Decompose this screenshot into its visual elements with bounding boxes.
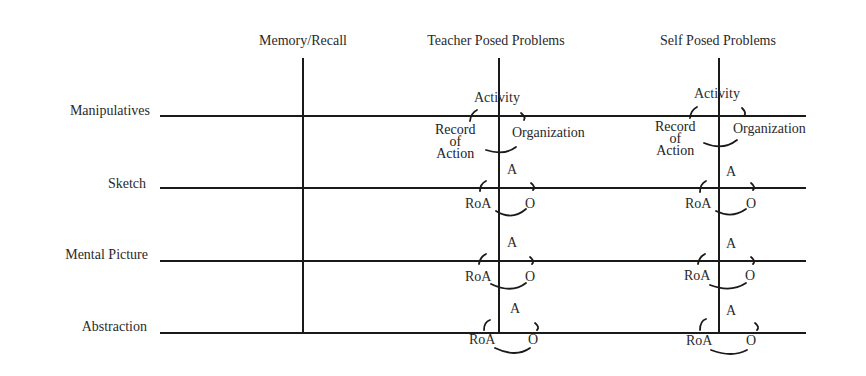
self-abstraction-organization-label: O	[746, 334, 756, 348]
self-mental-organization-label: O	[745, 269, 755, 283]
teacher-abstraction-organization-label: O	[528, 333, 538, 347]
teacher-mental-roa-label: RoA	[465, 270, 491, 284]
teacher-organization-label: Organization	[512, 126, 585, 140]
teacher-sketch-organization-label: O	[525, 197, 535, 211]
self-record-of-action-label: Record of Action	[655, 121, 695, 157]
row-line-manipulatives	[160, 115, 806, 117]
self-sketch-organization-label: O	[746, 197, 756, 211]
action-word: Action	[655, 145, 695, 157]
self-abstraction-activity-label: A	[726, 304, 736, 318]
self-sketch-roa-label: RoA	[685, 197, 711, 211]
teacher-activity-label: Activity	[474, 91, 520, 105]
self-activity-label: Activity	[694, 87, 740, 101]
action-word: Action	[435, 148, 475, 160]
row-label-sketch: Sketch	[0, 176, 146, 192]
column-header-memory-recall: Memory/Recall	[259, 33, 347, 49]
self-sketch-activity-label: A	[726, 165, 736, 179]
column-line-memory-recall	[302, 58, 304, 334]
row-label-mental-picture: Mental Picture	[0, 247, 148, 263]
column-header-teacher-posed: Teacher Posed Problems	[427, 33, 564, 49]
teacher-sketch-activity-label: A	[507, 163, 517, 177]
self-organization-label: Organization	[733, 122, 806, 136]
self-abstraction-roa-label: RoA	[686, 334, 712, 348]
row-label-manipulatives: Manipulatives	[0, 103, 150, 119]
teacher-mental-activity-label: A	[507, 236, 517, 250]
teacher-abstraction-activity-label: A	[510, 302, 520, 316]
column-header-self-posed: Self Posed Problems	[660, 33, 776, 49]
row-label-abstraction: Abstraction	[0, 319, 147, 335]
teacher-record-of-action-label: Record of Action	[435, 124, 475, 160]
teacher-abstraction-roa-label: RoA	[469, 333, 495, 347]
teacher-sketch-roa-label: RoA	[465, 197, 491, 211]
self-mental-activity-label: A	[726, 237, 736, 251]
teacher-mental-organization-label: O	[525, 270, 535, 284]
row-line-mental-picture	[160, 260, 806, 262]
self-mental-roa-label: RoA	[684, 269, 710, 283]
row-line-sketch	[160, 187, 806, 189]
